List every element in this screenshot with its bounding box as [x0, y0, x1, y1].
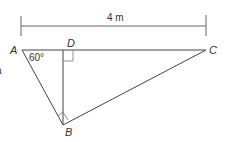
angle-label-A: 60°	[29, 52, 44, 63]
vertex-label-A: A	[9, 44, 17, 56]
side-BC	[63, 50, 206, 125]
partial-text-fragment: a	[0, 65, 2, 76]
vertex-label-C: C	[209, 44, 217, 56]
vertex-label-B: B	[65, 126, 72, 138]
vertex-label-D: D	[67, 37, 75, 49]
right-angle-marker-D	[63, 50, 73, 61]
dimension-label: 4 m	[107, 12, 124, 23]
triangle-diagram: 4 m A D C B 60° a	[0, 0, 227, 142]
